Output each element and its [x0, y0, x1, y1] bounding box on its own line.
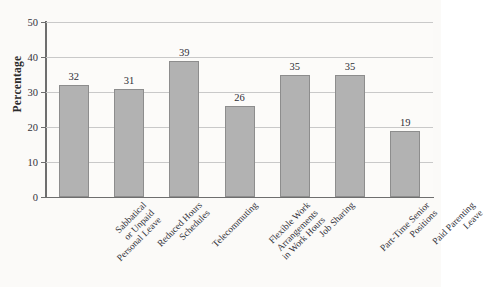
bar-value-label: 35 — [335, 61, 365, 72]
y-tick-label: 40 — [28, 52, 39, 63]
y-axis-title: Percentage — [11, 29, 23, 139]
bar[interactable] — [390, 131, 420, 198]
bar-group[interactable]: 35 — [280, 22, 310, 197]
bar-group[interactable]: 31 — [114, 22, 144, 197]
chart-title-cropped — [0, 0, 441, 13]
bar-value-label: 19 — [390, 117, 420, 128]
bar-group[interactable]: 19 — [390, 22, 420, 197]
y-tick-label: 20 — [28, 122, 39, 133]
x-tick-label: Part-Time SeniorPositions — [378, 200, 439, 261]
y-tick-label: 50 — [28, 17, 39, 28]
bar[interactable] — [169, 61, 199, 198]
bar[interactable] — [280, 75, 310, 198]
bar[interactable] — [335, 75, 365, 198]
y-tick-label: 30 — [28, 87, 39, 98]
bar-value-label: 26 — [225, 92, 255, 103]
bar[interactable] — [59, 85, 89, 197]
bar[interactable] — [114, 89, 144, 198]
y-tick-mark — [41, 197, 46, 198]
y-tick-label: 0 — [33, 192, 38, 203]
x-tick-label: Telecommuting — [211, 200, 260, 249]
x-tick-label: Paid ParentingLeave — [431, 200, 485, 254]
y-tick-label: 10 — [28, 157, 39, 168]
plot-area: 01020304050 32313926353519 — [46, 22, 433, 197]
bar-group[interactable]: 32 — [59, 22, 89, 197]
x-tick-label: Sabbaticalor UnpaidPersonal Leave — [100, 200, 163, 263]
bar-value-label: 32 — [59, 71, 89, 82]
bar-group[interactable]: 39 — [169, 22, 199, 197]
bars-layer: 32313926353519 — [46, 22, 433, 197]
bar-group[interactable]: 26 — [225, 22, 255, 197]
bar-value-label: 39 — [169, 47, 199, 58]
bar-group[interactable]: 35 — [335, 22, 365, 197]
x-tick-label-line: Telecommuting — [211, 200, 260, 249]
bar-value-label: 35 — [280, 61, 310, 72]
x-tick-label: Reduced HoursSchedules — [155, 200, 211, 256]
x-axis-category-labels: Sabbaticalor UnpaidPersonal LeaveReduced… — [46, 200, 441, 287]
bar-value-label: 31 — [114, 75, 144, 86]
bar[interactable] — [225, 106, 255, 197]
